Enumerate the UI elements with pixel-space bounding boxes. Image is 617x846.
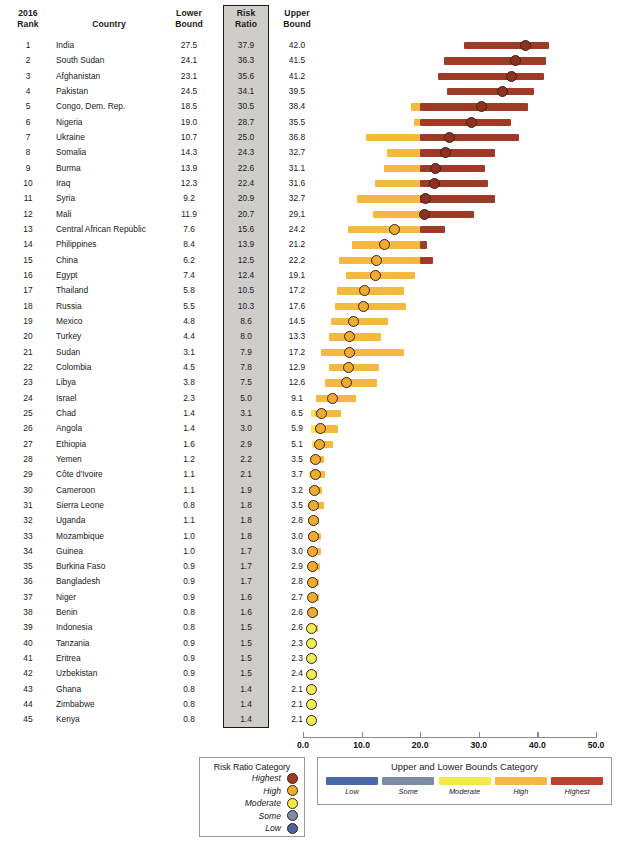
risk-ratio-marker	[510, 55, 521, 66]
cell-lower-bound: 3.8	[166, 375, 212, 390]
cell-rank: 3	[4, 69, 52, 84]
cell-upper-bound: 24.2	[274, 222, 320, 237]
table-row: 36Bangladesh0.91.72.8	[0, 574, 330, 589]
cell-rank: 24	[4, 391, 52, 406]
cell-upper-bound: 2.8	[274, 513, 320, 528]
risk-ratio-marker	[344, 347, 355, 358]
risk-ratio-marker	[389, 224, 400, 235]
cell-country: Burma	[56, 161, 164, 176]
data-table: 1India27.537.942.02South Sudan24.136.341…	[0, 38, 330, 728]
cell-upper-bound: 21.2	[274, 237, 320, 252]
table-row: 20Turkey4.48.013.3	[0, 329, 330, 344]
cell-risk-ratio: 2.9	[224, 437, 268, 452]
legend-risk-item: Moderate	[200, 797, 304, 810]
x-axis-tick-label: 30.0	[459, 740, 499, 750]
cell-rank: 25	[4, 406, 52, 421]
legend-risk-ratio-items: HighestHighModerateSomeLow	[200, 772, 304, 835]
cell-rank: 32	[4, 513, 52, 528]
x-axis-tick-label: 20.0	[400, 740, 440, 750]
cell-upper-bound: 3.0	[274, 544, 320, 559]
cell-upper-bound: 3.5	[274, 452, 320, 467]
cell-risk-ratio: 36.3	[224, 53, 268, 68]
cell-lower-bound: 3.1	[166, 345, 212, 360]
table-row: 39Indonesia0.81.52.6	[0, 620, 330, 635]
legend-bounds-item: Highest	[551, 777, 603, 796]
cell-risk-ratio: 1.5	[224, 651, 268, 666]
cell-rank: 22	[4, 360, 52, 375]
table-row: 3Afghanistan23.135.641.2	[0, 69, 330, 84]
legend-bounds-item-label: Low	[326, 787, 378, 796]
table-row: 40Tanzania0.91.52.3	[0, 636, 330, 651]
cell-lower-bound: 0.9	[166, 651, 212, 666]
cell-risk-ratio: 10.5	[224, 283, 268, 298]
cell-country: Turkey	[56, 329, 164, 344]
bound-range-bar	[420, 165, 485, 172]
cell-country: Ukraine	[56, 130, 164, 145]
cell-risk-ratio: 5.0	[224, 391, 268, 406]
cell-risk-ratio: 3.0	[224, 421, 268, 436]
cell-risk-ratio: 22.4	[224, 176, 268, 191]
cell-country: Congo, Dem. Rep.	[56, 99, 164, 114]
cell-upper-bound: 32.7	[274, 145, 320, 160]
cell-country: Eritrea	[56, 651, 164, 666]
risk-ratio-marker	[440, 147, 451, 158]
risk-ratio-marker	[371, 255, 382, 266]
table-row: 32Uganda1.11.82.8	[0, 513, 330, 528]
cell-rank: 38	[4, 605, 52, 620]
cell-country: Colombia	[56, 360, 164, 375]
cell-risk-ratio: 7.8	[224, 360, 268, 375]
cell-upper-bound: 6.5	[274, 406, 320, 421]
cell-risk-ratio: 2.1	[224, 467, 268, 482]
cell-country: Kenya	[56, 712, 164, 727]
cell-risk-ratio: 7.5	[224, 375, 268, 390]
cell-risk-ratio: 15.6	[224, 222, 268, 237]
cell-lower-bound: 0.9	[166, 590, 212, 605]
cell-rank: 43	[4, 682, 52, 697]
table-row: 26Angola1.43.05.9	[0, 421, 330, 436]
risk-ratio-marker	[520, 40, 531, 51]
cell-rank: 23	[4, 375, 52, 390]
cell-country: Burkina Faso	[56, 559, 164, 574]
cell-lower-bound: 0.8	[166, 620, 212, 635]
cell-rank: 37	[4, 590, 52, 605]
cell-risk-ratio: 34.1	[224, 84, 268, 99]
table-header: 2016 Rank Country Lower Bound Risk Ratio…	[0, 8, 617, 38]
x-axis-tick	[420, 732, 421, 738]
cell-risk-ratio: 24.3	[224, 145, 268, 160]
table-row: 24Israel2.35.09.1	[0, 391, 330, 406]
cell-risk-ratio: 1.4	[224, 682, 268, 697]
cell-risk-ratio: 1.5	[224, 636, 268, 651]
legend-bounds-item-swatch	[326, 777, 378, 785]
cell-risk-ratio: 1.4	[224, 697, 268, 712]
cell-risk-ratio: 20.7	[224, 207, 268, 222]
cell-upper-bound: 2.9	[274, 559, 320, 574]
risk-ratio-marker	[444, 132, 455, 143]
table-row: 29Côte d'Ivoire1.12.13.7	[0, 467, 330, 482]
cell-country: India	[56, 38, 164, 53]
cell-risk-ratio: 12.4	[224, 268, 268, 283]
cell-upper-bound: 2.1	[274, 712, 320, 727]
legend-risk-ratio: Risk Ratio Category HighestHighModerateS…	[199, 757, 305, 837]
legend-risk-item-label: High	[263, 786, 281, 796]
table-row: 23Libya3.87.512.6	[0, 375, 330, 390]
table-row: 35Burkina Faso0.91.72.9	[0, 559, 330, 574]
cell-lower-bound: 5.5	[166, 299, 212, 314]
risk-ratio-marker	[476, 101, 487, 112]
header-country: Country	[54, 19, 164, 30]
cell-lower-bound: 0.8	[166, 697, 212, 712]
cell-risk-ratio: 8.0	[224, 329, 268, 344]
cell-country: Tanzania	[56, 636, 164, 651]
table-row: 38Benin0.81.62.6	[0, 605, 330, 620]
cell-upper-bound: 2.3	[274, 636, 320, 651]
cell-country: Bangladesh	[56, 574, 164, 589]
table-row: 28Yemen1.22.23.5	[0, 452, 330, 467]
legend-bounds-item: Moderate	[439, 777, 491, 796]
cell-upper-bound: 31.1	[274, 161, 320, 176]
cell-country: Russia	[56, 299, 164, 314]
cell-country: Indonesia	[56, 620, 164, 635]
cell-lower-bound: 8.4	[166, 237, 212, 252]
bound-range-bar	[375, 180, 420, 187]
table-row: 6Nigeria19.028.735.5	[0, 115, 330, 130]
cell-country: Thailand	[56, 283, 164, 298]
table-row: 30Cameroon1.11.93.2	[0, 483, 330, 498]
